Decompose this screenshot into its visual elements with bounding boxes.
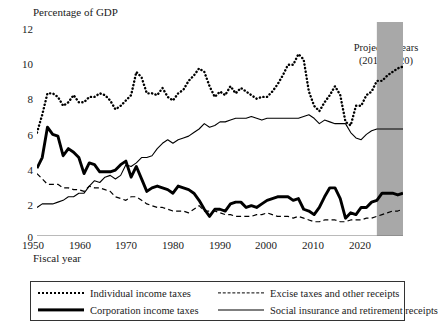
series-thin xyxy=(37,115,403,208)
x-tick-2010: 2010 xyxy=(293,240,333,251)
y-tick-2: 2 xyxy=(11,200,33,211)
x-tick-1960: 1960 xyxy=(60,240,100,251)
series-thick xyxy=(37,127,403,218)
legend-label-excise: Excise taxes and other receipts xyxy=(270,288,399,299)
legend-label-corporation: Corporation income taxes xyxy=(90,305,198,316)
legend-item-excise-taxes: Excise taxes and other receipts xyxy=(218,285,399,301)
x-tick-1990: 1990 xyxy=(200,240,240,251)
plot-area xyxy=(37,22,403,236)
legend-swatch-thick-icon xyxy=(38,304,84,316)
x-tick-2020: 2020 xyxy=(340,240,380,251)
y-tick-6: 6 xyxy=(11,130,33,141)
legend-swatch-thin-icon xyxy=(218,304,264,316)
legend-item-social-insurance: Social insurance and retirement receipts xyxy=(218,302,438,318)
x-tick-1970: 1970 xyxy=(106,240,146,251)
legend-label-individual: Individual income taxes xyxy=(90,288,191,299)
y-axis-title: Percentage of GDP xyxy=(33,6,118,18)
y-tick-8: 8 xyxy=(11,94,33,105)
y-tick-10: 10 xyxy=(11,59,33,70)
x-tick-1980: 1980 xyxy=(153,240,193,251)
series-dotted xyxy=(37,54,403,132)
legend-swatch-dashed-icon xyxy=(218,287,264,299)
x-tick-2000: 2000 xyxy=(246,240,286,251)
y-tick-12: 12 xyxy=(11,24,33,35)
chart-legend: Individual income taxes Excise taxes and… xyxy=(30,281,405,321)
series-canvas xyxy=(37,22,403,236)
legend-swatch-dotted-icon xyxy=(38,287,84,299)
legend-item-corporation-income-taxes: Corporation income taxes xyxy=(38,302,198,318)
legend-item-individual-income-taxes: Individual income taxes xyxy=(38,285,191,301)
x-axis-title: Fiscal year xyxy=(33,252,81,264)
y-tick-4: 4 xyxy=(11,165,33,176)
x-tick-1950: 1950 xyxy=(13,240,53,251)
legend-label-social-insurance: Social insurance and retirement receipts xyxy=(270,305,438,316)
